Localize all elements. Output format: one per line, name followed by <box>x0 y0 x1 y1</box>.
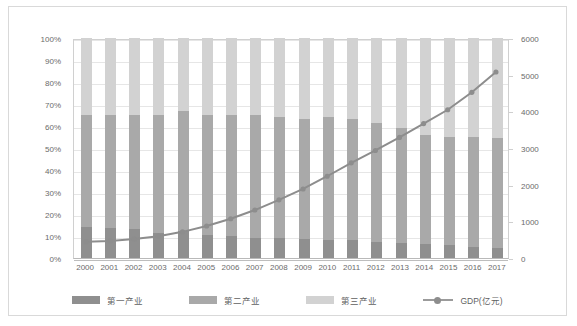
bar-segment-primary <box>444 245 455 258</box>
bar-segment-tertiary <box>323 38 334 117</box>
bar-segment-tertiary <box>250 38 261 115</box>
bar-segment-primary <box>202 235 213 258</box>
bar-segment-secondary <box>396 128 407 242</box>
bar-segment-tertiary <box>274 38 285 117</box>
bar-segment-secondary <box>299 119 310 239</box>
legend-swatch-primary <box>72 296 100 304</box>
bar-column <box>81 38 92 258</box>
legend-label-tertiary: 第三产业 <box>341 294 377 306</box>
legend-label-primary: 第一产业 <box>107 294 143 306</box>
left-axis-tick-label: 30% <box>17 189 61 198</box>
bar-segment-secondary <box>371 123 382 242</box>
bar-segment-tertiary <box>396 38 407 128</box>
bar-segment-primary <box>492 248 503 258</box>
bar-segment-tertiary <box>299 38 310 119</box>
left-axis-tick-label: 70% <box>17 101 61 110</box>
bar-segment-tertiary <box>81 38 92 115</box>
right-axis-tick <box>509 259 513 260</box>
bar-column <box>323 38 334 258</box>
chart-legend: 第一产业 第二产业 第三产业 GDP(亿元) <box>9 294 566 306</box>
right-axis-tick <box>509 186 513 187</box>
right-axis-tick-label: 3000 <box>521 145 561 154</box>
left-axis-tick-label: 10% <box>17 233 61 242</box>
bar-column <box>178 38 189 258</box>
bar-segment-primary <box>153 233 164 258</box>
bar-column <box>444 38 455 258</box>
gridline <box>74 260 508 261</box>
legend-item-primary-industry: 第一产业 <box>72 294 143 306</box>
plot-area <box>73 39 509 259</box>
bar-segment-tertiary <box>468 38 479 137</box>
bar-column <box>468 38 479 258</box>
legend-line-marker-icon <box>423 296 453 304</box>
bar-segment-secondary <box>81 115 92 227</box>
legend-label-gdp: GDP(亿元) <box>460 294 502 306</box>
bar-segment-primary <box>274 238 285 258</box>
legend-label-secondary: 第二产业 <box>224 294 260 306</box>
right-axis-tick <box>509 39 513 40</box>
bar-segment-primary <box>105 228 116 258</box>
bar-segment-secondary <box>444 137 455 245</box>
bar-segment-primary <box>468 247 479 258</box>
left-axis-tick-label: 50% <box>17 145 61 154</box>
bar-segment-secondary <box>105 115 116 228</box>
bar-segment-secondary <box>202 115 213 235</box>
bar-column <box>274 38 285 258</box>
bar-column <box>105 38 116 258</box>
right-axis-tick <box>509 76 513 77</box>
bar-segment-primary <box>178 231 189 259</box>
bar-column <box>396 38 407 258</box>
left-axis-tick-label: 80% <box>17 79 61 88</box>
legend-item-secondary-industry: 第二产业 <box>189 294 260 306</box>
bar-segment-tertiary <box>371 38 382 123</box>
bar-segment-tertiary <box>492 38 503 138</box>
bar-column <box>226 38 237 258</box>
bar-segment-tertiary <box>420 38 431 135</box>
bar-segment-primary <box>420 244 431 258</box>
chart-screenshot: 0%10%20%30%40%50%60%70%80%90%100% 010002… <box>0 0 577 326</box>
bar-column <box>202 38 213 258</box>
legend-item-tertiary-industry: 第三产业 <box>306 294 377 306</box>
bar-segment-primary <box>371 242 382 259</box>
bar-segment-tertiary <box>444 38 455 137</box>
right-axis-tick-label: 1000 <box>521 218 561 227</box>
bar-segment-secondary <box>153 115 164 233</box>
right-axis-tick-label: 4000 <box>521 108 561 117</box>
bar-column <box>153 38 164 258</box>
right-axis-tick <box>509 112 513 113</box>
bar-column <box>371 38 382 258</box>
bar-segment-tertiary <box>153 38 164 115</box>
bar-segment-primary <box>250 238 261 258</box>
right-axis-tick-label: 2000 <box>521 181 561 190</box>
bar-segment-primary <box>226 236 237 258</box>
right-axis-tick <box>509 149 513 150</box>
left-axis-tick-label: 90% <box>17 57 61 66</box>
bar-segment-secondary <box>492 138 503 248</box>
chart-frame: 0%10%20%30%40%50%60%70%80%90%100% 010002… <box>8 6 567 316</box>
bar-segment-tertiary <box>347 38 358 119</box>
bar-segment-primary <box>299 239 310 258</box>
bar-segment-secondary <box>468 137 479 247</box>
bar-column <box>347 38 358 258</box>
legend-item-gdp: GDP(亿元) <box>423 294 502 306</box>
bar-segment-primary <box>396 243 407 258</box>
x-axis-tick-label: 2017 <box>480 263 514 272</box>
bar-segment-tertiary <box>178 38 189 111</box>
left-axis-tick-label: 40% <box>17 167 61 176</box>
right-axis-tick-label: 5000 <box>521 71 561 80</box>
bar-segment-tertiary <box>226 38 237 115</box>
right-axis-tick-label: 6000 <box>521 35 561 44</box>
left-axis-tick-label: 0% <box>17 255 61 264</box>
bar-segment-secondary <box>274 117 285 238</box>
bar-segment-primary <box>129 229 140 258</box>
legend-swatch-secondary <box>189 296 217 304</box>
bar-segment-primary <box>81 227 92 258</box>
right-axis-tick-label: 0 <box>521 255 561 264</box>
right-axis-tick <box>509 222 513 223</box>
bar-segment-secondary <box>250 115 261 238</box>
bar-segment-secondary <box>226 115 237 236</box>
bar-column <box>250 38 261 258</box>
bar-segment-secondary <box>178 111 189 231</box>
legend-swatch-tertiary <box>306 296 334 304</box>
bar-segment-secondary <box>129 115 140 229</box>
